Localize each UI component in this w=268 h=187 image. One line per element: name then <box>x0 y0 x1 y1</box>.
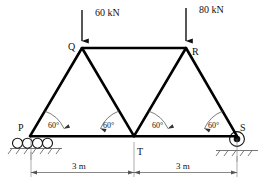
node-label-t: T <box>137 146 143 157</box>
node-label-s: S <box>240 122 246 133</box>
angle-label-1: 60° <box>48 121 59 130</box>
node-label-q: Q <box>68 41 76 52</box>
load-label-left: 60 kN <box>95 7 120 18</box>
dimension-label-left: 3 m <box>72 161 86 171</box>
left-support-roller <box>8 136 62 160</box>
angle-label-3: 60° <box>152 121 163 130</box>
node-label-r: R <box>192 46 199 57</box>
angle-label-4: 60° <box>208 121 219 130</box>
node-label-p: P <box>18 122 24 133</box>
load-label-right: 80 kN <box>199 4 224 15</box>
dimension-label-right: 3 m <box>176 161 190 171</box>
truss-diagram: 60 kN 80 kN Q R P S T 60° 60° 60° 60° 3 … <box>0 0 268 187</box>
angle-label-2: 60° <box>103 121 114 130</box>
truss-canvas: 60 kN 80 kN Q R P S T 60° 60° 60° 60° 3 … <box>0 0 268 187</box>
